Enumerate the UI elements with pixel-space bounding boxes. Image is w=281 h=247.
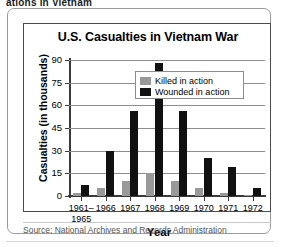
y-tick-mark [65,128,69,129]
y-tick-label: 60 [36,99,62,110]
x-tick-mark [106,196,107,201]
bar-wounded [106,151,114,196]
y-tick-mark [65,60,69,61]
legend-label-wounded: Wounded in action [155,87,229,97]
y-tick-label: 90 [36,54,62,65]
y-tick-mark [65,105,69,106]
y-tick-mark [65,83,69,84]
x-tick-mark [179,196,180,201]
bar-wounded [81,185,89,196]
bar-group [73,60,90,196]
x-tick-mark [130,196,131,201]
bar-killed [171,181,179,196]
bar-killed [97,188,105,196]
page-bottom-rule [6,241,274,242]
bar-wounded [179,111,187,196]
y-tick-label: 45 [36,122,62,133]
page-cutoff-heading: ations in Vietnam [6,0,146,6]
bar-wounded [253,188,261,196]
y-tick-mark [65,151,69,152]
chart-outer-frame: U.S. Casualties in Vietnam War Casualtie… [7,8,271,234]
x-tick-mark [253,196,254,201]
bar-killed [146,173,154,196]
bar-killed [220,193,228,196]
y-tick-label: 75 [36,77,62,88]
legend-item-wounded: Wounded in action [140,86,239,97]
bar-wounded [204,158,212,196]
bar-killed [122,181,130,196]
x-tick-mark [228,196,229,201]
y-tick-mark [65,173,69,174]
x-tick-mark [81,196,82,201]
bar-killed [244,195,252,196]
x-tick-mark [204,196,205,201]
bar-killed [195,188,203,196]
bar-wounded [130,111,138,196]
chart-plot-frame: U.S. Casualties in Vietnam War Casualtie… [23,23,271,212]
legend-item-killed: Killed in action [140,75,239,86]
y-tick-label: 30 [36,145,62,156]
bar-group [244,60,261,196]
legend-swatch-killed-icon [140,77,151,85]
chart-card: ations in Vietnam U.S. Casualties in Vie… [0,0,281,247]
x-tick-mark [155,196,156,201]
y-tick-mark [65,196,69,197]
plot-wrapper: Casualties (in thousands) Year 015304560… [24,24,272,213]
y-tick-label: 15 [36,167,62,178]
y-tick-label: 0 [36,190,62,201]
bar-wounded [228,167,236,196]
bar-group [97,60,114,196]
source-note: Source: National Archives and Records Ad… [23,225,269,235]
bar-killed [73,193,81,196]
chart-legend: Killed in action Wounded in action [135,71,244,99]
source-divider [23,222,271,223]
legend-label-killed: Killed in action [155,76,213,86]
x-tick-label-line: 1972 [236,203,270,214]
x-tick-label: 1972 [236,203,270,214]
legend-swatch-wounded-icon [140,88,151,96]
y-axis-title: Casualties (in thousands) [37,53,49,183]
